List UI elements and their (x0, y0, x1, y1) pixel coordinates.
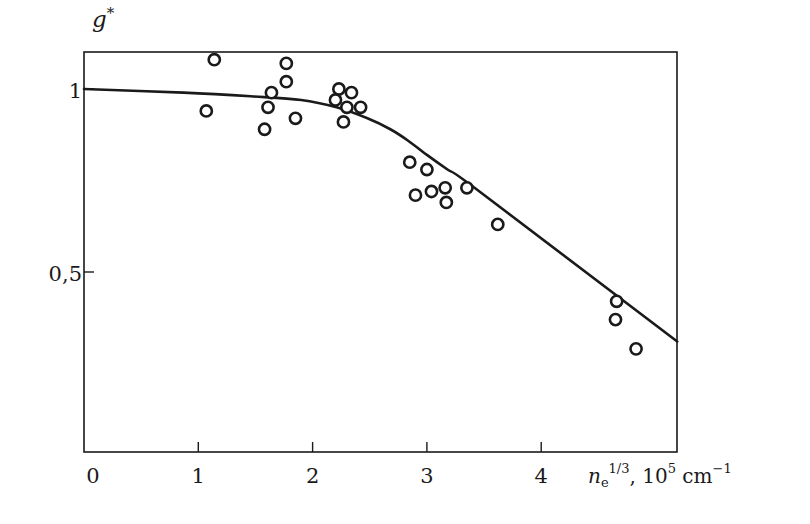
data-point-marker (440, 182, 451, 193)
x-tick-label: 2 (306, 466, 319, 487)
data-point-marker (209, 54, 220, 65)
x-tick-label: 1 (192, 466, 205, 487)
data-point-marker (330, 94, 341, 105)
data-point-marker (404, 157, 415, 168)
data-point-marker (262, 102, 273, 113)
data-point-marker (346, 87, 357, 98)
y-axis-label: g* (92, 6, 114, 31)
data-point-marker (338, 116, 349, 127)
data-point-marker (492, 219, 503, 230)
x-tick-label: 4 (535, 466, 548, 487)
data-point-marker (266, 87, 277, 98)
y-axis-ticks (84, 89, 94, 272)
data-point-marker (421, 164, 432, 175)
plot-frame (84, 52, 677, 452)
data-point-marker (290, 113, 301, 124)
data-point-marker (410, 190, 421, 201)
chart-canvas (0, 0, 810, 524)
theory-curve (84, 89, 677, 342)
data-point-marker (426, 186, 437, 197)
data-points (201, 54, 642, 354)
data-point-marker (611, 296, 622, 307)
data-point-marker (630, 343, 641, 354)
data-point-marker (341, 102, 352, 113)
y-tick-label: 1 (69, 81, 82, 102)
data-point-marker (610, 314, 621, 325)
data-point-marker (201, 105, 212, 116)
x-axis-label: ne1/3, 105 cm−1 (588, 462, 732, 489)
data-point-marker (355, 102, 366, 113)
data-point-marker (461, 182, 472, 193)
x-tick-label: 0 (86, 466, 99, 487)
data-point-marker (259, 124, 270, 135)
data-point-marker (281, 76, 292, 87)
data-point-marker (281, 58, 292, 69)
y-tick-label: 0,5 (49, 264, 82, 285)
data-point-marker (441, 197, 452, 208)
x-axis-ticks (198, 442, 541, 452)
data-point-marker (333, 83, 344, 94)
x-tick-label: 3 (420, 466, 433, 487)
